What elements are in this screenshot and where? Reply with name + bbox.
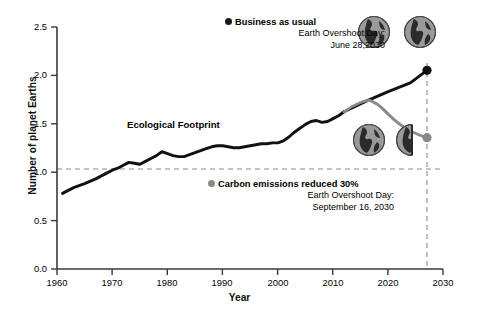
x-tick-1980: 1980	[145, 277, 189, 288]
legend-bottom-title-row: Carbon emissions reduced 30%	[208, 178, 394, 190]
y-tick-0-0: 0.0	[13, 263, 47, 274]
y-tick-2-5: 2.5	[13, 21, 47, 32]
x-axis-ticks	[57, 269, 443, 275]
legend-top-title-row: Business as usual	[225, 16, 385, 28]
globe-icon-top-2	[405, 17, 436, 48]
legend-top-title: Business as usual	[235, 17, 316, 27]
globe-icon-bottom-half	[397, 125, 428, 156]
legend-top-line1: Earth Overshoot Day:	[225, 28, 385, 40]
y-axis-title: Number of planet Earths	[27, 56, 38, 216]
legend-top-line2: June 28,2030	[225, 40, 385, 52]
x-tick-1990: 1990	[200, 277, 244, 288]
x-tick-1970: 1970	[90, 277, 134, 288]
legend-bottom-title: Carbon emissions reduced 30%	[218, 179, 359, 189]
legend-dot-gray-icon	[208, 180, 215, 187]
x-tick-2000: 2000	[256, 277, 300, 288]
x-tick-2020: 2020	[366, 277, 410, 288]
y-axis-ticks	[51, 27, 57, 269]
x-tick-1960: 1960	[35, 277, 79, 288]
legend-dot-black-icon	[225, 18, 232, 25]
carbon-reduced-endpoint-marker	[422, 133, 431, 142]
y-tick-0-5: 0.5	[13, 215, 47, 226]
legend-bottom-line1: Earth Overshoot Day:	[208, 190, 394, 202]
business-as-usual-endpoint-marker	[422, 66, 431, 75]
legend-bottom-line2: September 16, 2030	[208, 202, 394, 214]
x-tick-2030: 2030	[421, 277, 465, 288]
legend-business-as-usual: Business as usual Earth Overshoot Day: J…	[225, 16, 385, 51]
ecological-footprint-label: Ecological Footprint	[127, 119, 220, 130]
x-axis-title: Year	[0, 292, 479, 303]
x-tick-2010: 2010	[311, 277, 355, 288]
chart-figure: 2.5 2.0 1.5 1.0 0.5 0.0 1960 1970 1980 1…	[0, 0, 479, 314]
globe-icon-bottom-1	[354, 125, 385, 156]
legend-carbon-reduced: Carbon emissions reduced 30% Earth Overs…	[208, 178, 394, 213]
